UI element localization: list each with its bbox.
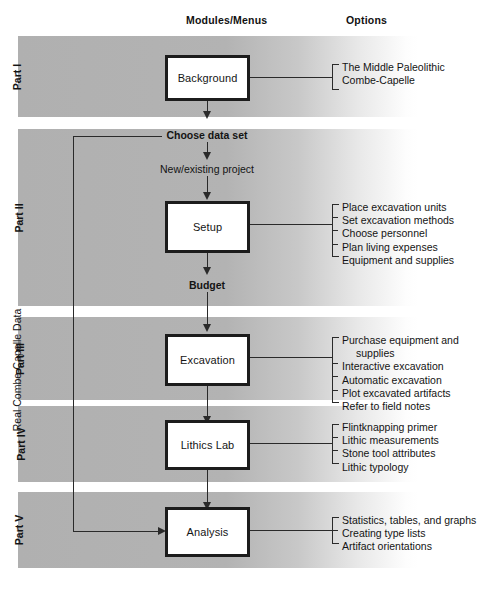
flow-label-new-existing-project: New/existing project — [160, 163, 254, 175]
module-label-analysis: Analysis — [187, 526, 229, 538]
option-item[interactable]: Lithic measurements — [342, 434, 439, 447]
flowchart-diagram: Modules/Menus Options Part I Part II Par… — [0, 0, 485, 592]
flow-label-choose-data-set: Choose data set — [166, 129, 247, 141]
options-list-lithics-lab: Flintknapping primer Lithic measurements… — [342, 421, 439, 474]
part-label-iv: Part IV — [15, 427, 27, 460]
part-label-ii: Part II — [13, 203, 25, 232]
bracket-tick — [332, 363, 338, 364]
module-label-excavation: Excavation — [180, 354, 235, 366]
part-label-i: Part I — [11, 63, 23, 89]
option-item[interactable]: Set excavation methods — [342, 214, 454, 227]
module-box-excavation[interactable]: Excavation — [165, 334, 250, 386]
option-item-line2: supplies — [342, 347, 459, 360]
options-list-setup: Place excavation units Set excavation me… — [342, 201, 454, 267]
module-box-setup[interactable]: Setup — [165, 201, 250, 253]
option-item[interactable]: Creating type lists — [342, 527, 476, 540]
options-list-analysis: Statistics, tables, and graphs Creating … — [342, 514, 476, 554]
option-item[interactable]: Plot excavated artifacts — [342, 387, 459, 400]
real-combe-capelle-data-label: Real Combe-Capelle Data — [11, 309, 23, 432]
column-header-options: Options — [346, 14, 387, 26]
option-item-line1: Purchase equipment and — [342, 334, 459, 346]
option-item[interactable]: Statistics, tables, and graphs — [342, 514, 476, 527]
leader-excavation-options — [250, 357, 332, 358]
connector-budget-down — [207, 292, 208, 328]
module-label-lithics-lab: Lithics Lab — [181, 439, 235, 451]
option-item[interactable]: The Middle Paleolithic — [342, 61, 445, 74]
option-item[interactable]: Stone tool attributes — [342, 447, 439, 460]
arrow-setup-down — [203, 267, 211, 275]
bracket-lithics-lab — [332, 424, 338, 464]
connector-realdata-vertical — [73, 136, 74, 532]
option-item[interactable]: Combe-Capelle — [342, 74, 445, 87]
bracket-background — [332, 64, 338, 90]
bracket-excavation — [332, 337, 338, 403]
arrow-newproject-down — [203, 192, 211, 200]
leader-background-options — [250, 77, 332, 78]
leader-analysis-options — [250, 530, 332, 531]
module-box-lithics-lab[interactable]: Lithics Lab — [165, 420, 250, 470]
module-label-setup: Setup — [193, 221, 222, 233]
arrow-chooseset-down — [203, 152, 211, 160]
arrow-budget-down — [203, 324, 211, 332]
option-item[interactable]: Purchase equipment and supplies — [342, 334, 459, 360]
bracket-tick — [332, 530, 338, 531]
connector-realdata-top — [73, 136, 162, 137]
connector-excavation-down — [207, 386, 208, 420]
module-box-analysis[interactable]: Analysis — [165, 507, 250, 557]
bracket-tick — [332, 244, 338, 245]
column-header-modules: Modules/Menus — [186, 14, 267, 26]
option-item[interactable]: Artifact orientations — [342, 540, 476, 553]
option-item[interactable]: Choose personnel — [342, 227, 454, 240]
options-list-excavation: Purchase equipment and supplies Interact… — [342, 334, 459, 413]
connector-lithics-down — [207, 470, 208, 506]
arrow-background-down — [203, 111, 211, 119]
bracket-tick — [332, 390, 338, 391]
module-box-background[interactable]: Background — [165, 55, 250, 101]
connector-realdata-bottom — [73, 531, 161, 532]
option-item[interactable]: Lithic typology — [342, 461, 439, 474]
bracket-tick — [332, 376, 338, 377]
option-item[interactable]: Plan living expenses — [342, 241, 454, 254]
option-item[interactable]: Automatic excavation — [342, 374, 459, 387]
option-item[interactable]: Place excavation units — [342, 201, 454, 214]
bracket-tick — [332, 230, 338, 231]
options-list-background: The Middle Paleolithic Combe-Capelle — [342, 61, 445, 87]
bracket-tick — [332, 450, 338, 451]
part-label-v: Part V — [13, 515, 25, 545]
option-item[interactable]: Refer to field notes — [342, 400, 459, 413]
leader-setup-options — [250, 224, 332, 225]
bracket-tick — [332, 217, 338, 218]
bracket-tick — [332, 437, 338, 438]
leader-lithics-options — [250, 443, 332, 444]
option-item[interactable]: Equipment and supplies — [342, 254, 454, 267]
option-item[interactable]: Interactive excavation — [342, 360, 459, 373]
flow-label-budget: Budget — [189, 279, 225, 291]
option-item[interactable]: Flintknapping primer — [342, 421, 439, 434]
module-label-background: Background — [178, 72, 238, 84]
